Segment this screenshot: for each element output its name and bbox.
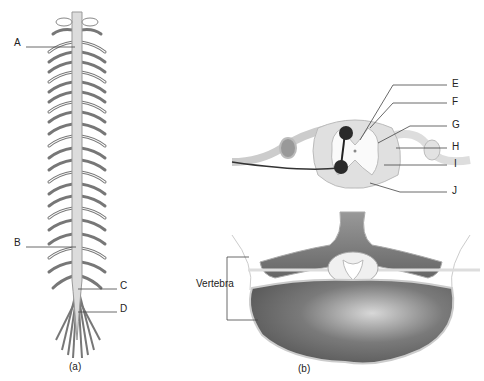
- label-vertebra: Vertebra: [196, 279, 234, 289]
- label-i: I: [454, 159, 457, 169]
- vertebral-body: [250, 280, 453, 364]
- label-d: D: [120, 304, 127, 314]
- label-j: J: [452, 186, 457, 196]
- diagram-stage: A B C D (a) E F G H I J Vertebra (b): [0, 0, 484, 381]
- label-f: F: [452, 97, 458, 107]
- dorsal-root-ganglion: [280, 138, 296, 158]
- spinal-cord-diagram: [0, 0, 484, 381]
- spinal-cord-cross-section: [232, 120, 470, 188]
- vertebra: [232, 212, 480, 364]
- label-b: B: [14, 238, 21, 248]
- spinal-cord: [72, 12, 82, 340]
- sensory-neuron-cell-body: [339, 126, 353, 140]
- caption-b: (b): [298, 364, 310, 374]
- caption-a: (a): [69, 362, 81, 372]
- label-e: E: [452, 79, 459, 89]
- central-canal: [354, 150, 357, 153]
- label-a: A: [14, 38, 21, 48]
- label-c: C: [120, 281, 127, 291]
- label-g: G: [452, 120, 460, 130]
- label-h: H: [452, 142, 459, 152]
- motor-neuron-cell-body: [334, 160, 348, 174]
- spinal-cord-longitudinal: [49, 12, 105, 358]
